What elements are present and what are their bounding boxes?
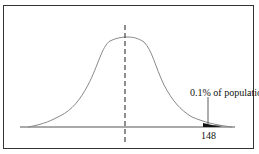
bell-curve-chart: 0.1% of population 148	[0, 0, 259, 154]
distribution-curve	[28, 37, 232, 127]
tail-value-label: 148	[201, 130, 216, 141]
tail-annotation-label: 0.1% of population	[190, 87, 259, 98]
